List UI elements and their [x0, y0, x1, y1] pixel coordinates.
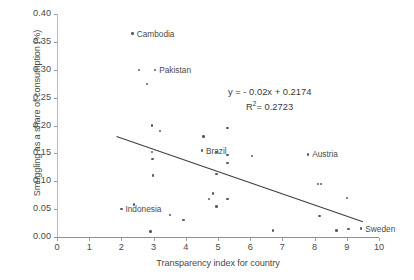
r-squared: R2= 0.2723: [228, 99, 311, 114]
y-tick-label: 0.15: [17, 148, 51, 157]
x-tick-label: 1: [79, 243, 99, 252]
r-squared-value: = 0.2723: [256, 101, 293, 112]
data-point: [317, 183, 319, 185]
data-point: [360, 227, 362, 229]
x-tick-label: 9: [337, 243, 357, 252]
x-tick-mark: [186, 238, 187, 241]
data-point: [151, 151, 153, 153]
data-point: [215, 205, 217, 207]
data-point: [226, 162, 228, 164]
x-tick-label: 10: [369, 243, 389, 252]
y-tick-label: 0.10: [17, 176, 51, 185]
data-point: [251, 155, 253, 157]
data-point: [159, 130, 161, 132]
data-point: [215, 173, 217, 175]
data-point: [272, 229, 274, 231]
point-label-austria: Austria: [312, 150, 338, 158]
regression-equation: y = - 0.02x + 0.2174: [228, 85, 311, 99]
data-point: [138, 69, 140, 71]
y-tick-label: 0.20: [17, 121, 51, 130]
r-squared-symbol: R: [246, 101, 253, 112]
y-tick-label: 0.35: [17, 37, 51, 46]
x-tick-mark: [121, 238, 122, 241]
data-point: [347, 228, 349, 230]
data-point: [335, 229, 337, 231]
data-point: [208, 198, 210, 200]
y-tick-label: 0.05: [17, 204, 51, 213]
y-tick-label: 0.00: [17, 232, 51, 241]
data-point: [226, 127, 228, 129]
x-tick-mark: [347, 238, 348, 241]
data-point: [152, 174, 154, 176]
data-point: [320, 183, 322, 185]
x-tick-label: 5: [208, 243, 228, 252]
x-tick-mark: [89, 238, 90, 241]
x-tick-label: 6: [240, 243, 260, 252]
scatter-chart: Smuggling as a share of consumption (%) …: [0, 0, 414, 280]
data-point: [154, 69, 156, 71]
x-tick-mark: [250, 238, 251, 241]
point-label-cambodia: Cambodia: [137, 30, 175, 38]
data-point: [146, 83, 148, 85]
data-point: [226, 154, 228, 156]
x-tick-label: 2: [111, 243, 131, 252]
data-point: [318, 215, 320, 217]
data-point: [346, 197, 348, 199]
point-label-sweden: Sweden: [365, 225, 395, 233]
x-tick-label: 7: [272, 243, 292, 252]
data-point: [169, 214, 171, 216]
data-point: [307, 153, 309, 155]
x-tick-label: 0: [47, 243, 67, 252]
x-axis-title: Transparency index for country: [57, 258, 379, 268]
x-tick-label: 8: [305, 243, 325, 252]
point-label-indonesia: Indonesia: [125, 205, 161, 213]
plot-area: CambodiaPakistanBrazilAustriaIndonesiaSw…: [57, 14, 379, 237]
data-point: [120, 208, 122, 210]
x-tick-mark: [218, 238, 219, 241]
x-tick-mark: [57, 238, 58, 241]
regression-equation-block: y = - 0.02x + 0.2174 R2= 0.2723: [228, 85, 311, 113]
data-point: [149, 230, 151, 232]
data-point: [131, 32, 133, 34]
x-tick-label: 3: [144, 243, 164, 252]
y-tick-label: 0.30: [17, 65, 51, 74]
point-label-pakistan: Pakistan: [159, 66, 191, 74]
data-point: [212, 192, 214, 194]
data-point: [202, 135, 204, 137]
x-tick-mark: [282, 238, 283, 241]
y-tick-label: 0.40: [17, 9, 51, 18]
x-tick-mark: [315, 238, 316, 241]
x-tick-mark: [154, 238, 155, 241]
y-tick-label: 0.25: [17, 93, 51, 102]
data-point: [151, 158, 153, 160]
data-point: [182, 219, 184, 221]
x-tick-label: 4: [176, 243, 196, 252]
data-point: [151, 124, 153, 126]
data-point: [226, 198, 228, 200]
x-tick-mark: [379, 238, 380, 241]
data-point: [201, 149, 203, 151]
